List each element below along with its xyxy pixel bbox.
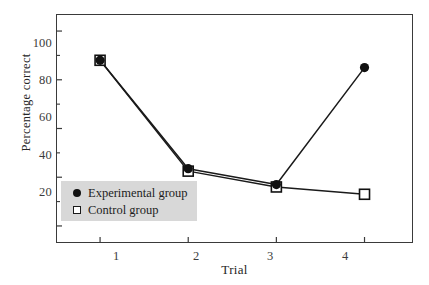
y-axis-title: Percentage correct <box>19 33 34 173</box>
x-tick-2: 2 <box>183 246 209 261</box>
x-tick-label: 3 <box>267 249 273 263</box>
open-square-icon <box>69 206 85 214</box>
filled-circle-icon <box>69 189 85 197</box>
x-tick-label: 1 <box>113 249 119 263</box>
legend-item-experimental: Experimental group <box>69 184 193 201</box>
legend-item-label: Experimental group <box>85 185 188 201</box>
x-tick-3: 3 <box>257 246 283 261</box>
chart-container: 100 80 60 40 20 1 2 3 4 Percentage corre… <box>0 0 429 285</box>
x-tick-label: 4 <box>342 249 348 263</box>
y-tick-label: 20 <box>22 186 52 199</box>
x-tick-4: 4 <box>332 246 358 261</box>
x-axis-title: Trial <box>56 262 413 278</box>
x-tick-label: 2 <box>193 249 199 263</box>
legend-item-label: Control group <box>85 202 158 218</box>
chart-legend: Experimental group Control group <box>61 181 197 221</box>
legend-item-control: Control group <box>69 201 193 218</box>
y-tick-20: 20 <box>16 186 52 199</box>
x-tick-1: 1 <box>103 246 129 261</box>
